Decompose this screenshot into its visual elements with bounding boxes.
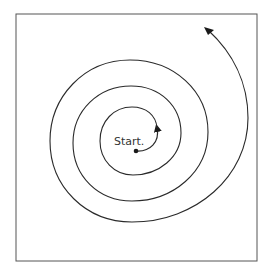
spiral-diagram: Start. <box>0 0 271 277</box>
spiral-path <box>50 30 248 222</box>
start-dot <box>134 149 139 154</box>
start-label: Start. <box>114 135 144 148</box>
